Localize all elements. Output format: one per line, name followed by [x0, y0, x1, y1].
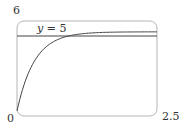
origin-label: 0 [7, 113, 14, 124]
asymptote-label: y = 5 [37, 23, 66, 34]
chart-canvas [0, 0, 185, 134]
y-max-label: 6 [13, 5, 20, 16]
x-max-label: 2.5 [162, 111, 180, 122]
curve-line [17, 32, 157, 111]
plot-frame [17, 21, 157, 116]
